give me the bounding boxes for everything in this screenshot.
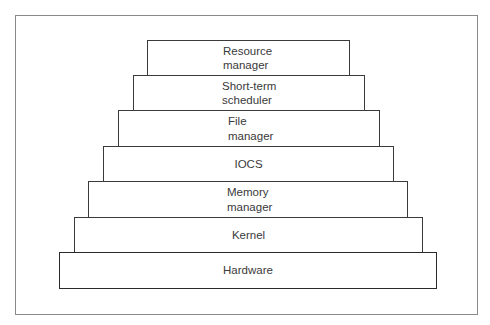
label-line: IOCS <box>234 157 262 172</box>
layer-short-term-scheduler: Short-term scheduler <box>133 75 365 111</box>
label-line: Kernel <box>232 228 265 243</box>
label-line: Hardware <box>223 263 273 278</box>
layer-hardware: Hardware <box>59 252 437 289</box>
layer-iocs: IOCS <box>103 146 394 182</box>
layer-label: IOCS <box>234 157 262 172</box>
layer-file-manager: File manager <box>118 110 380 147</box>
layer-label: File manager <box>228 114 273 143</box>
layer-kernel: Kernel <box>74 217 423 254</box>
layer-label: Hardware <box>223 263 273 278</box>
layer-resource-manager: Resource manager <box>147 40 350 76</box>
layer-label: Resource manager <box>223 44 272 73</box>
label-line: manager <box>227 200 272 215</box>
label-line: scheduler <box>222 93 276 108</box>
label-line: Resource <box>223 44 272 59</box>
layer-memory-manager: Memory manager <box>88 181 408 218</box>
label-line: manager <box>228 129 273 144</box>
label-line: File <box>228 114 273 129</box>
layer-label: Memory manager <box>227 185 272 214</box>
label-line: Short-term <box>222 79 276 94</box>
label-line: Memory <box>227 185 272 200</box>
layer-label: Short-term scheduler <box>222 79 276 108</box>
label-line: manager <box>223 58 272 73</box>
layer-label: Kernel <box>232 228 265 243</box>
